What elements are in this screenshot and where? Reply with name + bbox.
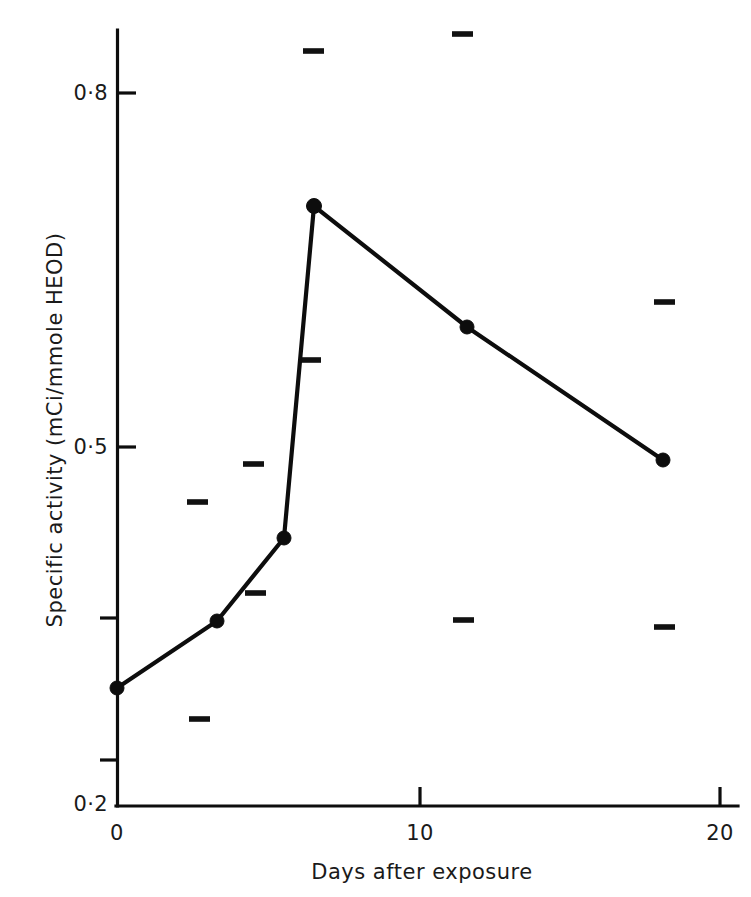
x-axis-title: Days after exposure bbox=[311, 860, 532, 884]
axes-group bbox=[116, 30, 738, 806]
x-tick-label-10: 10 bbox=[406, 821, 434, 845]
y-axis-ticks bbox=[117, 93, 136, 447]
data-point bbox=[307, 199, 322, 214]
data-point bbox=[110, 681, 124, 695]
x-tick-label-0: 0 bbox=[110, 821, 124, 845]
x-tick-label-20: 20 bbox=[706, 821, 734, 845]
data-point bbox=[210, 614, 224, 628]
y-tick-label-0-2: 0·2 bbox=[73, 792, 108, 816]
data-point bbox=[656, 453, 670, 467]
x-axis-ticks bbox=[420, 787, 720, 806]
series-line-specific-activity bbox=[117, 206, 663, 688]
scatter-dash-marks bbox=[187, 34, 675, 719]
y-axis-title: Specific activity (mCi/mmole HEOD) bbox=[43, 233, 67, 628]
data-point bbox=[460, 320, 474, 334]
chart-plot-area: 0·8 0·5 0·2 0 10 20 Days after exposure … bbox=[0, 0, 751, 897]
data-point bbox=[277, 531, 291, 545]
chart-figure: 0·8 0·5 0·2 0 10 20 Days after exposure … bbox=[0, 0, 751, 897]
series-markers bbox=[110, 199, 670, 696]
y-tick-label-0-8: 0·8 bbox=[73, 81, 108, 105]
y-tick-label-0-5: 0·5 bbox=[73, 435, 108, 459]
